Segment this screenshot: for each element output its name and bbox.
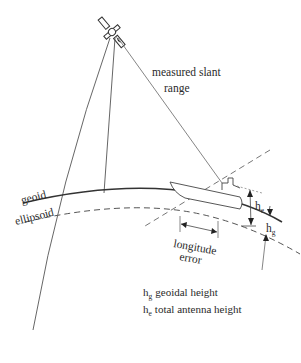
tangent-dashed-line [145,150,270,226]
h-e-label: he [255,200,265,215]
slant-range-label-line2: range [164,82,190,95]
antenna-reference-line [233,185,262,193]
legend: hggeoidal height hetotal antenna height [143,286,242,318]
vertical-to-geoid-line [104,38,115,193]
longitude-error-label-line2: error [179,250,203,266]
slant-range-label-line1: measured slant [152,66,221,78]
slant-range-line [118,38,222,183]
slant-range-diagram: measured slant range geoid ellipsoid he … [0,0,301,363]
ellipsoid-curve [25,208,300,254]
h-g-label: hg [266,222,276,237]
satellite-icon [94,12,131,51]
earth-center-line [33,38,110,330]
ellipsoid-label: ellipsoid [14,206,56,228]
geoid-label: geoid [20,188,48,207]
legend-item-hg: hggeoidal height [143,286,218,301]
legend-item-he: hetotal antenna height [143,303,242,318]
geoid-curve [23,188,282,222]
